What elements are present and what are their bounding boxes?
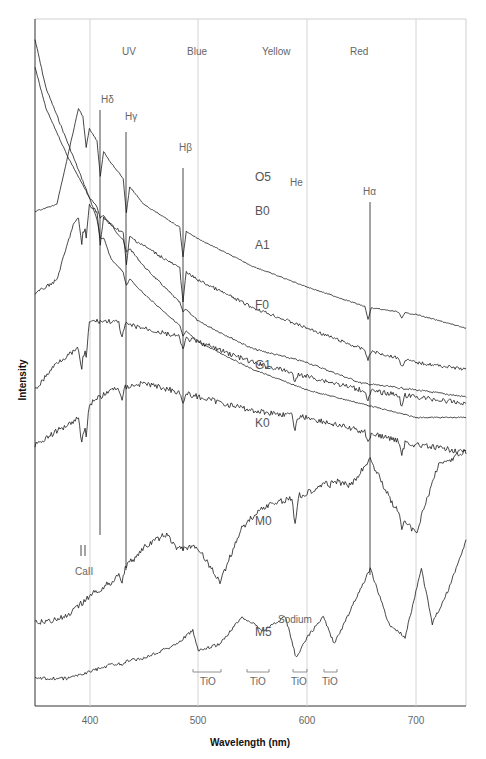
label-k0: K0 [255, 416, 270, 430]
label-m0: M0 [255, 514, 272, 528]
y-axis-title: Intensity [17, 359, 28, 401]
spectrum-m5 [35, 540, 466, 680]
tio-labels: TiO TiO TiO TiO [200, 676, 338, 687]
label-b0: B0 [255, 204, 270, 218]
band-label-red: Red [350, 46, 368, 57]
tick-500: 500 [190, 715, 207, 726]
tick-600: 600 [299, 715, 316, 726]
label-f0: F0 [255, 298, 269, 312]
label-h-gamma: Hγ [125, 111, 137, 122]
stellar-spectra-chart: UV Blue Yellow Red Hδ Hγ Hβ He Hα CaII S… [0, 0, 486, 759]
label-tio-1: TiO [200, 676, 216, 687]
label-tio-4: TiO [322, 676, 338, 687]
label-m5: M5 [255, 625, 272, 639]
band-label-uv: UV [122, 46, 136, 57]
tick-400: 400 [82, 715, 99, 726]
label-tio-3: TiO [291, 676, 307, 687]
label-h-delta: Hδ [101, 94, 114, 105]
label-sodium: Sodium [278, 614, 312, 625]
label-h-beta: Hβ [179, 142, 192, 153]
spectral-type-labels: O5 B0 A1 F0 G1 K0 M0 M5 [255, 170, 272, 639]
label-ca-ii: CaII [75, 566, 93, 577]
band-label-blue: Blue [187, 46, 207, 57]
label-h-alpha: Hα [363, 186, 376, 197]
x-axis-title: Wavelength (nm) [210, 737, 290, 748]
label-tio-2: TiO [250, 676, 266, 687]
band-labels: UV Blue Yellow Red [122, 46, 368, 57]
band-label-yellow: Yellow [262, 46, 291, 57]
x-axis-ticks: 400 500 600 700 [82, 715, 425, 726]
label-g1: G1 [255, 358, 271, 372]
label-a1: A1 [255, 238, 270, 252]
tio-brackets [193, 669, 337, 672]
gridlines [90, 19, 416, 706]
absorption-lines [81, 110, 370, 575]
label-he: He [290, 177, 303, 188]
tick-700: 700 [408, 715, 425, 726]
label-o5: O5 [255, 170, 271, 184]
